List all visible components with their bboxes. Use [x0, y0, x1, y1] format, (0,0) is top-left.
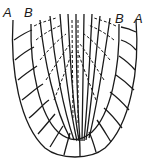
flow-net-drawing — [0, 0, 149, 166]
label-a-right: A — [134, 12, 143, 25]
label-b-right: B — [115, 12, 124, 25]
flow-net-diagram: A B B A — [0, 0, 149, 166]
label-a-left: A — [3, 6, 12, 19]
boundary-b — [31, 24, 119, 140]
label-b-left: B — [24, 6, 33, 19]
